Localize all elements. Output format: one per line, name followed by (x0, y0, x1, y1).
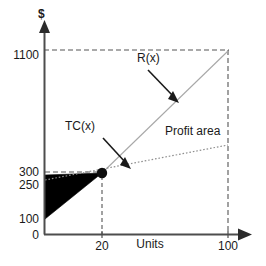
y-tick-label-1100: 1100 (0, 49, 39, 61)
y-axis-arrowhead-icon (39, 20, 50, 33)
x-axis-arrowhead-icon (238, 229, 252, 241)
x-axis-title: Units (127, 238, 173, 250)
revenue-line (102, 51, 228, 173)
x-tick-label-100: 100 (211, 240, 245, 252)
total-cost-leader-line (103, 138, 126, 163)
y-tick-label-300: 300 (0, 166, 39, 178)
y-tick-label-250: 250 (0, 179, 39, 191)
total-cost-line (45, 145, 228, 180)
x-tick-label-20: 20 (87, 240, 117, 252)
y-tick-label-100: 100 (0, 213, 39, 225)
total-cost-label: TC(x) (65, 120, 95, 132)
loss-area-shape (45, 173, 102, 219)
chart-figure: $ Units 1100 300 250 100 0 20 100 R(x) T… (0, 0, 266, 266)
profit-area-label: Profit area (165, 125, 220, 137)
revenue-leader-line (148, 70, 174, 97)
y-axis-title: $ (38, 8, 45, 20)
break-even-point-marker (97, 168, 107, 178)
revenue-label: R(x) (137, 52, 160, 64)
y-tick-label-0: 0 (0, 229, 39, 241)
chart-canvas (0, 0, 266, 266)
